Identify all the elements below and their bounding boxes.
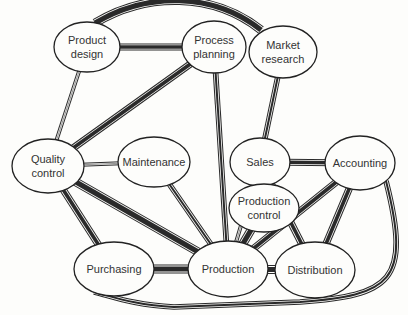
node-market-research: Marketresearch xyxy=(249,26,317,78)
node-label: Production xyxy=(238,195,291,207)
node-ellipse xyxy=(12,139,84,193)
edge-strand xyxy=(214,47,228,269)
node-production-control: Productioncontrol xyxy=(229,184,299,232)
node-label: Distribution xyxy=(287,264,342,276)
node-label: design xyxy=(71,48,103,60)
node-label: Maintenance xyxy=(123,156,186,168)
node-product-design: Productdesign xyxy=(54,22,120,72)
node-label: planning xyxy=(193,48,235,60)
node-ellipse xyxy=(249,26,317,78)
node-label: Accounting xyxy=(333,157,387,169)
node-label: Quality xyxy=(31,153,66,165)
node-layer: ProductdesignProcessplanningMarketresear… xyxy=(12,21,395,298)
node-process-planning: Processplanning xyxy=(182,21,246,73)
node-ellipse xyxy=(182,21,246,73)
node-quality-control: Qualitycontrol xyxy=(12,139,84,193)
department-network-diagram: ProductdesignProcessplanningMarketresear… xyxy=(0,0,408,315)
node-label: Product xyxy=(68,34,106,46)
node-label: Market xyxy=(266,39,300,51)
node-production: Production xyxy=(188,241,268,297)
node-label: Purchasing xyxy=(86,263,141,275)
node-purchasing: Purchasing xyxy=(74,242,154,296)
node-maintenance: Maintenance xyxy=(118,137,190,187)
node-label: research xyxy=(262,53,305,65)
node-label: Sales xyxy=(246,156,274,168)
node-label: Process xyxy=(194,34,234,46)
node-ellipse xyxy=(229,184,299,232)
node-distribution: Distribution xyxy=(275,242,355,298)
node-ellipse xyxy=(54,22,120,72)
node-accounting: Accounting xyxy=(325,136,395,190)
node-sales: Sales xyxy=(230,138,290,186)
node-label: control xyxy=(31,167,64,179)
node-label: Production xyxy=(202,263,255,275)
node-label: control xyxy=(247,209,280,221)
